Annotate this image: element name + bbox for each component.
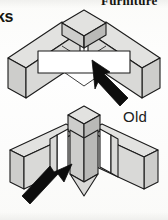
- old-groove-tongue-right: [111, 135, 118, 177]
- old-groove-slot-right: [100, 129, 111, 173]
- old-left-board-end-face: [10, 150, 24, 189]
- old-post-right-body: [84, 130, 98, 182]
- bottom-joint-diagram: [0, 104, 168, 220]
- old-post-left-body: [70, 130, 84, 182]
- white-connector-plate: [38, 51, 130, 73]
- old-right-board-end-face: [144, 150, 158, 189]
- illustration-page: Furniture ks Old: [0, 0, 168, 220]
- top-joint-diagram: [0, 6, 168, 112]
